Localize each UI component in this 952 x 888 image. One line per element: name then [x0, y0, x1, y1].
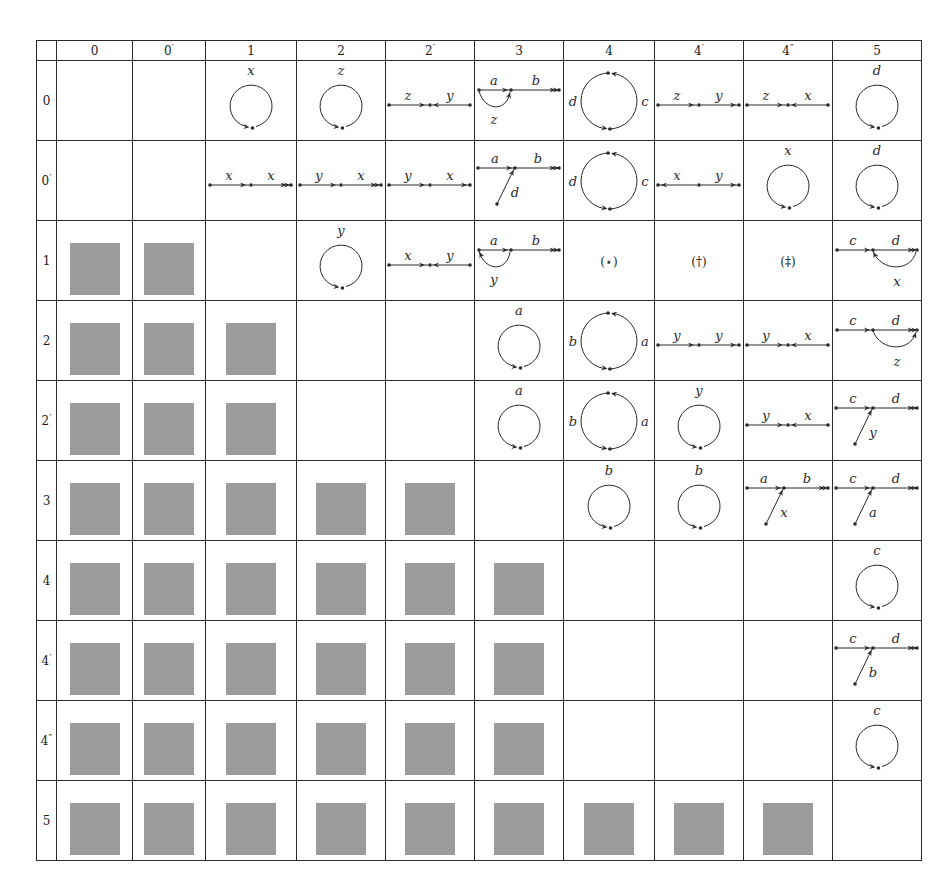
- excluded-cell: [564, 781, 655, 861]
- index-label: 0: [164, 44, 172, 58]
- table-row: 4′cdb: [37, 621, 922, 701]
- gray-block: [226, 403, 276, 455]
- excluded-cell: [475, 621, 564, 701]
- edge-label: y: [672, 328, 681, 343]
- diagram-cell: d: [833, 61, 922, 141]
- edge-label: b: [803, 471, 811, 486]
- row-header: 1: [37, 221, 57, 301]
- column-header-2: 2: [297, 41, 386, 61]
- excluded-cell: [206, 781, 297, 861]
- gray-block: [144, 403, 194, 455]
- join-diagram: abx: [744, 466, 832, 536]
- empty-cell: [833, 781, 922, 861]
- footnote-symbol: (⋆): [600, 255, 617, 269]
- index-label: 0: [91, 44, 99, 58]
- index-label: 4: [43, 574, 51, 588]
- two-vertex-cycle-diagram: dc: [565, 143, 653, 219]
- two-vertex-cycle-diagram: dc: [565, 63, 653, 139]
- excluded-cell: [206, 701, 297, 781]
- arc-edge-diagram: aby: [475, 228, 563, 294]
- gray-block: [405, 723, 455, 775]
- diagram-cell: d: [833, 141, 922, 221]
- excluded-cell: [57, 461, 133, 541]
- diagram-cell: zx: [744, 61, 833, 141]
- edge-label: z: [893, 354, 901, 369]
- empty-cell: [57, 61, 133, 141]
- prime-mark: ′: [702, 42, 704, 53]
- prime-mark: ″: [48, 732, 52, 743]
- diagram-cell: z: [297, 61, 386, 141]
- prime-mark: ′: [433, 42, 435, 53]
- footnote-symbol: (‡): [780, 255, 795, 269]
- gray-block: [144, 803, 194, 855]
- excluded-cell: [133, 461, 206, 541]
- gray-block: [144, 243, 194, 295]
- two-vertex-cycle-diagram: ba: [565, 383, 653, 459]
- diagram-cell: y: [297, 221, 386, 301]
- diagram-cell: b: [655, 461, 744, 541]
- edge-label: d: [892, 233, 900, 248]
- diagram-cell: ba: [564, 381, 655, 461]
- empty-cell: [655, 701, 744, 781]
- excluded-cell: [744, 781, 833, 861]
- loop-diagram: z: [306, 63, 376, 139]
- edge-label: b: [695, 463, 703, 478]
- excluded-cell: [133, 221, 206, 301]
- join-diagram: cdy: [833, 386, 921, 456]
- edge-label: z: [490, 112, 498, 127]
- edge-label: x: [357, 168, 365, 183]
- excluded-cell: [386, 621, 475, 701]
- excluded-cell: [386, 701, 475, 781]
- edge-label: d: [873, 63, 881, 78]
- gray-block: [226, 323, 276, 375]
- join-diagram: cdb: [833, 626, 921, 696]
- empty-cell: [564, 621, 655, 701]
- arc-edge-diagram: cdx: [833, 228, 921, 294]
- edge-label: c: [641, 174, 649, 189]
- edge-label: y: [314, 168, 323, 183]
- empty-cell: [475, 461, 564, 541]
- two-vertex-cycle-diagram: ba: [565, 303, 653, 379]
- chain-diagram: yy: [655, 321, 743, 361]
- edge-label: x: [225, 168, 233, 183]
- column-header-4: 4: [564, 41, 655, 61]
- empty-cell: [655, 621, 744, 701]
- edge-label: x: [673, 168, 681, 183]
- index-label: 5: [43, 814, 51, 828]
- gray-block: [494, 563, 544, 615]
- diagram-cell: cdb: [833, 621, 922, 701]
- edge-label: a: [491, 151, 499, 166]
- excluded-cell: [133, 301, 206, 381]
- row-header: 0: [37, 61, 57, 141]
- edge-label: b: [532, 73, 540, 88]
- gray-block: [226, 563, 276, 615]
- table-row: 1yxyaby(⋆)(†)(‡)cdx: [37, 221, 922, 301]
- gray-block: [144, 323, 194, 375]
- edge-label: a: [641, 414, 649, 429]
- diagram-cell: xy: [655, 141, 744, 221]
- row-header: 5: [37, 781, 57, 861]
- table-row: 5: [37, 781, 922, 861]
- excluded-cell: [57, 621, 133, 701]
- row-header: 3: [37, 461, 57, 541]
- diagram-cell: cdy: [833, 381, 922, 461]
- excluded-cell: [475, 701, 564, 781]
- index-label: 2: [425, 44, 433, 58]
- excluded-cell: [297, 461, 386, 541]
- diagram-cell: b: [564, 461, 655, 541]
- edge-label: a: [490, 233, 498, 248]
- excluded-cell: [206, 381, 297, 461]
- gray-block: [316, 563, 366, 615]
- excluded-cell: [57, 301, 133, 381]
- edge-label: x: [446, 168, 454, 183]
- converging-edges-diagram: zx: [744, 81, 832, 121]
- diagram-cell: xy: [386, 221, 475, 301]
- loop-diagram: d: [842, 143, 912, 219]
- converging-edges-diagram: zy: [386, 81, 474, 121]
- diagram-cell: abz: [475, 61, 564, 141]
- edge-label: d: [569, 174, 577, 189]
- diagram-cell: cdz: [833, 301, 922, 381]
- index-label: 4: [782, 44, 790, 58]
- edge-label: c: [849, 313, 857, 328]
- gray-block: [70, 323, 120, 375]
